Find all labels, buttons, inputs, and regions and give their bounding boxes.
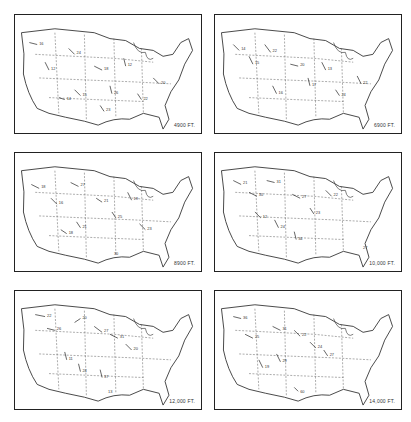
- us-map-icon: 14152220 17132422 16: [215, 15, 401, 133]
- svg-text:27: 27: [80, 182, 84, 187]
- svg-text:34: 34: [298, 236, 303, 241]
- svg-text:16: 16: [279, 90, 284, 95]
- svg-text:27: 27: [104, 328, 108, 333]
- svg-text:12: 12: [128, 62, 132, 67]
- svg-text:30: 30: [259, 192, 264, 197]
- svg-text:36: 36: [243, 315, 248, 320]
- svg-text:25: 25: [118, 214, 123, 219]
- svg-text:20: 20: [134, 346, 139, 351]
- svg-text:23: 23: [106, 107, 111, 112]
- svg-text:17: 17: [312, 82, 316, 87]
- svg-text:24: 24: [318, 344, 323, 349]
- svg-text:60: 60: [300, 389, 305, 394]
- svg-text:22: 22: [334, 192, 338, 197]
- svg-text:21: 21: [82, 224, 86, 229]
- map-panel-4900ft: 16122418 26122220 151423 4900 FT.: [14, 14, 202, 134]
- svg-text:22: 22: [143, 96, 147, 101]
- svg-text:19: 19: [134, 196, 138, 201]
- svg-text:22: 22: [302, 332, 306, 337]
- svg-text:27: 27: [363, 245, 367, 250]
- svg-text:25: 25: [255, 334, 260, 339]
- svg-text:20: 20: [300, 62, 305, 67]
- svg-text:12: 12: [263, 214, 267, 219]
- map-panel-12000ft: 22262027 31201124 3713 12,000 FT.: [14, 290, 202, 410]
- svg-text:23: 23: [147, 226, 152, 231]
- us-map-icon: 22262027 31201124 3713: [15, 291, 201, 409]
- svg-text:27: 27: [302, 194, 306, 199]
- altitude-label: 10,000 FT.: [369, 260, 395, 266]
- svg-text:16: 16: [39, 41, 44, 46]
- svg-text:20: 20: [161, 80, 166, 85]
- svg-text:24: 24: [82, 368, 87, 373]
- svg-text:12: 12: [51, 66, 55, 71]
- svg-text:26: 26: [57, 326, 62, 331]
- svg-text:24: 24: [77, 50, 82, 55]
- svg-text:22: 22: [363, 80, 367, 85]
- svg-text:31: 31: [282, 326, 286, 331]
- svg-text:15: 15: [82, 92, 87, 97]
- map-panel-14000ft: 36253122 24271929 60 14,000 FT.: [214, 290, 402, 410]
- svg-text:11: 11: [69, 356, 73, 361]
- svg-text:24: 24: [280, 224, 285, 229]
- svg-text:13: 13: [108, 389, 113, 394]
- svg-text:18: 18: [104, 66, 109, 71]
- altitude-label: 12,000 FT.: [169, 398, 195, 404]
- svg-text:16: 16: [59, 200, 64, 205]
- us-map-icon: 16122418 26122220 151423: [15, 15, 201, 133]
- altitude-label: 4900 FT.: [174, 122, 195, 128]
- altitude-label: 6900 FT.: [374, 122, 395, 128]
- svg-text:14: 14: [241, 46, 246, 51]
- map-panel-8900ft: 18162721 25192321 1830 8900 FT.: [14, 152, 202, 272]
- svg-text:22: 22: [273, 48, 277, 53]
- us-map-icon: 21303127 23222434 1227: [215, 153, 401, 271]
- svg-text:37: 37: [104, 374, 108, 379]
- altitude-label: 8900 FT.: [174, 260, 195, 266]
- svg-text:30: 30: [114, 251, 119, 256]
- svg-text:27: 27: [330, 352, 334, 357]
- svg-text:31: 31: [120, 334, 124, 339]
- svg-text:29: 29: [282, 358, 286, 363]
- map-panel-10000ft: 21303127 23222434 1227 10,000 FT.: [214, 152, 402, 272]
- svg-text:21: 21: [243, 180, 247, 185]
- svg-text:22: 22: [47, 313, 51, 318]
- svg-text:31: 31: [277, 179, 281, 184]
- svg-text:20: 20: [82, 315, 87, 320]
- svg-text:19: 19: [265, 364, 269, 369]
- map-panel-6900ft: 14152220 17132422 16 6900 FT.: [214, 14, 402, 134]
- svg-text:18: 18: [69, 230, 74, 235]
- svg-text:23: 23: [316, 210, 321, 215]
- us-map-icon: 36253122 24271929 60: [215, 291, 401, 409]
- svg-text:15: 15: [255, 60, 260, 65]
- us-map-icon: 18162721 25192321 1830: [15, 153, 201, 271]
- svg-text:26: 26: [114, 90, 119, 95]
- svg-text:18: 18: [41, 184, 46, 189]
- svg-text:21: 21: [104, 198, 108, 203]
- svg-text:13: 13: [328, 66, 333, 71]
- altitude-label: 14,000 FT.: [369, 398, 395, 404]
- svg-text:24: 24: [341, 92, 346, 97]
- svg-text:14: 14: [67, 96, 72, 101]
